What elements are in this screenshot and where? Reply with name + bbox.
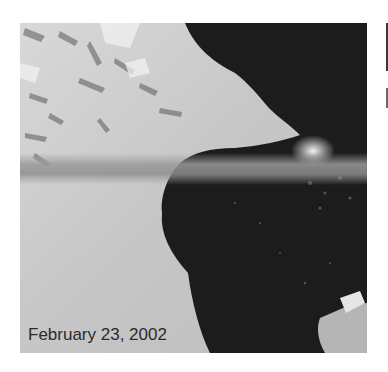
satellite-image: February 23, 2002 <box>20 23 367 353</box>
sensor-band <box>20 153 367 185</box>
satellite-scene <box>20 23 367 353</box>
date-caption: February 23, 2002 <box>28 325 167 345</box>
